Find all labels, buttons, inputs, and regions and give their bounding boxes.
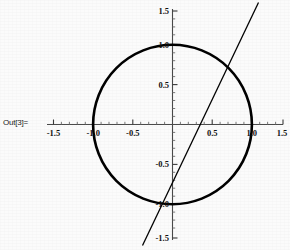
output-cell: Out[3]= [0, 0, 290, 250]
y-tick-label: -0.5 [156, 159, 169, 169]
y-tick-label: -1.5 [156, 233, 169, 243]
x-tick-label: 1.0 [246, 128, 257, 138]
y-tick-label: -1.0 [156, 199, 169, 209]
y-tick-label: 1.5 [158, 6, 169, 16]
y-tick-label: 0.5 [158, 80, 169, 90]
x-tick-label: 0.5 [207, 128, 218, 138]
x-axis-major-ticks [54, 120, 284, 125]
x-tick-label: -0.5 [126, 128, 139, 138]
plot-canvas: -1.5 -1.0 -0.5 0.5 1.0 1.5 1.5 1.0 0.5 -… [0, 0, 290, 250]
y-tick-label: 1.0 [158, 40, 169, 50]
x-axis-tick-labels: -1.5 -1.0 -0.5 0.5 1.0 1.5 [47, 128, 288, 138]
x-tick-label: -1.5 [47, 128, 60, 138]
x-tick-label: 1.5 [277, 128, 288, 138]
x-tick-label: -1.0 [86, 128, 99, 138]
